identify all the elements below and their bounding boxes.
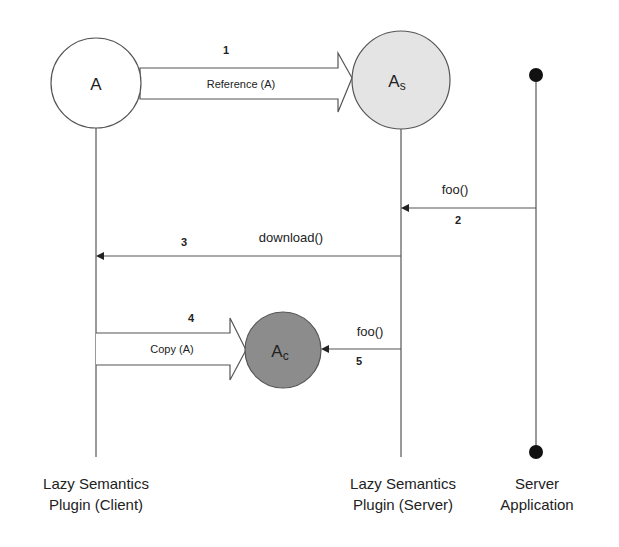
node-a-label: A xyxy=(90,75,102,94)
step2-number: 2 xyxy=(455,214,461,226)
app-lane-label-line2: Application xyxy=(500,496,573,513)
step3-label: download() xyxy=(259,230,323,245)
step3-number: 3 xyxy=(181,236,187,248)
app-start-dot xyxy=(529,68,543,82)
step1-label: Reference (A) xyxy=(207,78,275,90)
app-lane-label-line1: Server xyxy=(515,475,559,492)
arrowhead-icon xyxy=(401,204,409,212)
client-lane-label-line2: Plugin (Client) xyxy=(49,496,143,513)
step4-label: Copy (A) xyxy=(150,343,193,355)
arrowhead-icon xyxy=(96,252,104,260)
step2-label: foo() xyxy=(442,182,469,197)
step5-number: 5 xyxy=(356,355,362,367)
sequence-diagram: 1 Reference (A) A As foo() 2 download() … xyxy=(0,0,619,547)
step1-number: 1 xyxy=(223,44,229,56)
step4-number: 4 xyxy=(188,312,195,324)
arrowhead-icon xyxy=(321,345,329,353)
server-lane-label-line1: Lazy Semantics xyxy=(350,475,456,492)
client-lane-label-line1: Lazy Semantics xyxy=(43,475,149,492)
server-lane-label-line2: Plugin (Server) xyxy=(353,496,453,513)
step5-label: foo() xyxy=(357,324,384,339)
app-end-dot xyxy=(529,445,543,459)
